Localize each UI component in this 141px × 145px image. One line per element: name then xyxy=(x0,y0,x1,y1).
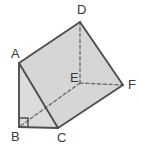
vertex-label-c: C xyxy=(57,130,66,145)
vertex-label-d: D xyxy=(77,2,86,17)
vertex-label-e: E xyxy=(70,70,79,85)
geometry-figure-svg: A B C D E F xyxy=(0,0,141,145)
vertex-label-f: F xyxy=(128,77,136,92)
vertex-label-a: A xyxy=(11,46,20,61)
vertex-label-b: B xyxy=(11,129,20,144)
edge-c-b xyxy=(19,127,58,128)
geometry-figure: A B C D E F xyxy=(0,0,141,145)
